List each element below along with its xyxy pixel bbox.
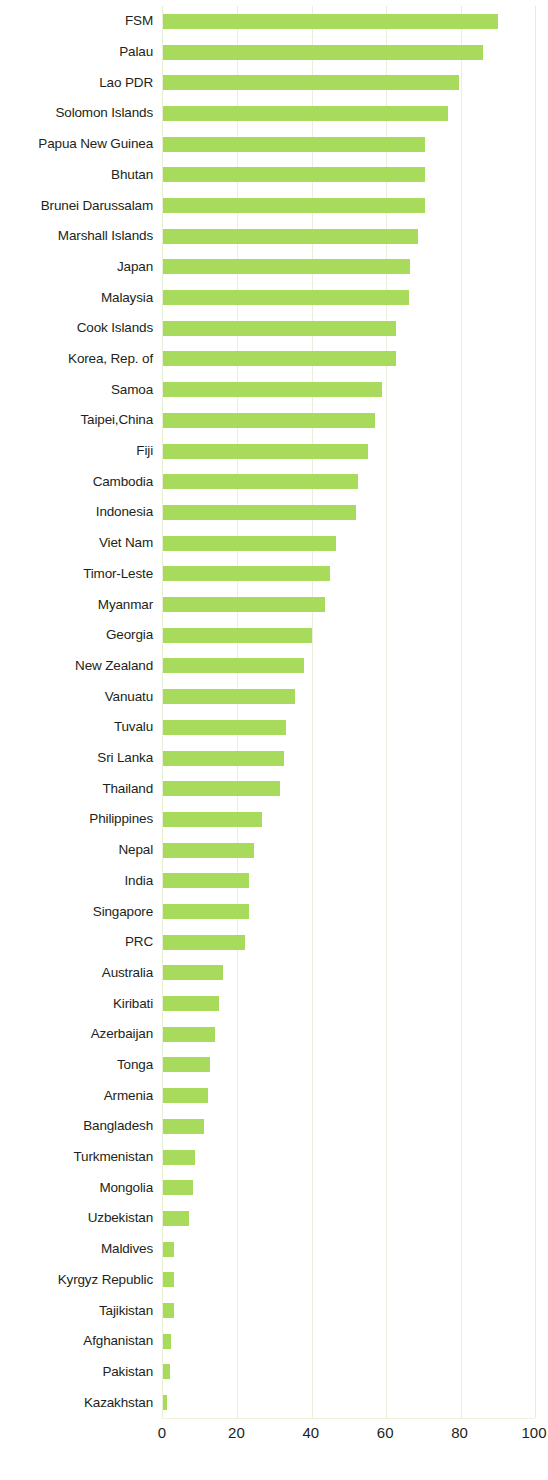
- category-label: Georgia: [0, 627, 153, 643]
- bar: [163, 167, 425, 182]
- bar-row: [163, 1234, 535, 1265]
- bar: [163, 1027, 215, 1042]
- category-label: Lao PDR: [0, 75, 153, 91]
- bar-row: [163, 528, 535, 559]
- bar-row: [163, 1142, 535, 1173]
- bar: [163, 751, 284, 766]
- bar: [163, 1364, 170, 1379]
- bar: [163, 474, 358, 489]
- bar: [163, 597, 325, 612]
- category-label: Sri Lanka: [0, 750, 153, 766]
- bar-row: [163, 466, 535, 497]
- bar-row: [163, 497, 535, 528]
- category-label: Brunei Darussalam: [0, 198, 153, 214]
- bar-row: [163, 958, 535, 989]
- x-tick-label: 100: [521, 1424, 546, 1441]
- bar: [163, 1211, 189, 1226]
- gridline-100: [535, 6, 536, 1418]
- bar: [163, 566, 330, 581]
- bar: [163, 1150, 195, 1165]
- category-label: Turkmenistan: [0, 1149, 153, 1165]
- category-label: Timor-Leste: [0, 566, 153, 582]
- x-tick-label: 80: [451, 1424, 468, 1441]
- bar-row: [163, 559, 535, 590]
- bar-row: [163, 988, 535, 1019]
- category-label: Armenia: [0, 1088, 153, 1104]
- category-label: Fiji: [0, 443, 153, 459]
- bar: [163, 1242, 174, 1257]
- category-label: PRC: [0, 934, 153, 950]
- bar-row: [163, 927, 535, 958]
- category-label: Pakistan: [0, 1364, 153, 1380]
- category-label: Kiribati: [0, 996, 153, 1012]
- x-tick-label: 60: [377, 1424, 394, 1441]
- category-label: FSM: [0, 13, 153, 29]
- x-tick-label: 20: [228, 1424, 245, 1441]
- bar-row: [163, 1080, 535, 1111]
- bar-row: [163, 1019, 535, 1050]
- bar-row: [163, 743, 535, 774]
- bar-row: [163, 1387, 535, 1418]
- bar-row: [163, 6, 535, 37]
- category-label: Korea, Rep. of: [0, 351, 153, 367]
- bar: [163, 658, 304, 673]
- category-label: Cambodia: [0, 474, 153, 490]
- bar: [163, 1119, 204, 1134]
- bar: [163, 137, 425, 152]
- bar: [163, 505, 356, 520]
- bar-row: [163, 1357, 535, 1388]
- bar-rows: [163, 6, 535, 1418]
- category-label: Taipei,China: [0, 412, 153, 428]
- bar-row: [163, 159, 535, 190]
- bar-row: [163, 896, 535, 927]
- bar: [163, 259, 410, 274]
- bar: [163, 843, 254, 858]
- bar-row: [163, 835, 535, 866]
- bar-row: [163, 1265, 535, 1296]
- category-label: Viet Nam: [0, 535, 153, 551]
- bar: [163, 965, 223, 980]
- bar: [163, 45, 483, 60]
- bar: [163, 14, 498, 29]
- bar: [163, 351, 396, 366]
- category-label: Palau: [0, 44, 153, 60]
- bar: [163, 321, 396, 336]
- category-label: Afghanistan: [0, 1333, 153, 1349]
- bar: [163, 413, 375, 428]
- bar: [163, 1303, 174, 1318]
- bar-row: [163, 1326, 535, 1357]
- bar: [163, 904, 249, 919]
- bar-row: [163, 773, 535, 804]
- category-label: Thailand: [0, 781, 153, 797]
- bar-row: [163, 374, 535, 405]
- x-tick-label: 0: [158, 1424, 166, 1441]
- bar-row: [163, 98, 535, 129]
- bar-row: [163, 129, 535, 160]
- bar: [163, 536, 336, 551]
- bar: [163, 720, 286, 735]
- bar: [163, 812, 262, 827]
- category-label: Philippines: [0, 811, 153, 827]
- category-label: Bangladesh: [0, 1118, 153, 1134]
- category-label: Solomon Islands: [0, 105, 153, 121]
- bar-row: [163, 804, 535, 835]
- category-label: Maldives: [0, 1241, 153, 1257]
- category-label: Mongolia: [0, 1180, 153, 1196]
- bar-row: [163, 1203, 535, 1234]
- category-label: Cook Islands: [0, 320, 153, 336]
- bar: [163, 382, 382, 397]
- bar-row: [163, 37, 535, 68]
- category-label: Tuvalu: [0, 719, 153, 735]
- bar: [163, 689, 295, 704]
- category-label: Myanmar: [0, 597, 153, 613]
- bar: [163, 198, 425, 213]
- category-label: Nepal: [0, 842, 153, 858]
- bar-row: [163, 1172, 535, 1203]
- bar: [163, 106, 448, 121]
- bar-row: [163, 405, 535, 436]
- category-label: Kazakhstan: [0, 1395, 153, 1411]
- bar: [163, 290, 409, 305]
- category-label: Tonga: [0, 1057, 153, 1073]
- category-label: Bhutan: [0, 167, 153, 183]
- bar-row: [163, 681, 535, 712]
